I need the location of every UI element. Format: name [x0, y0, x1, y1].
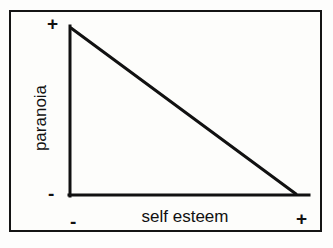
y-axis-title-container: paranoia	[0, 55, 80, 180]
x-axis-low-label: -	[70, 212, 76, 231]
y-axis-title: paranoia	[32, 84, 49, 150]
x-axis-title: self esteem	[110, 208, 260, 225]
figure-canvas: + - - + self esteem paranoia	[0, 0, 333, 248]
x-axis-high-label: +	[296, 209, 307, 228]
y-axis-low-label: -	[48, 184, 54, 203]
data-line-paranoia-vs-self-esteem	[71, 28, 296, 194]
y-axis-high-label: +	[47, 14, 58, 33]
